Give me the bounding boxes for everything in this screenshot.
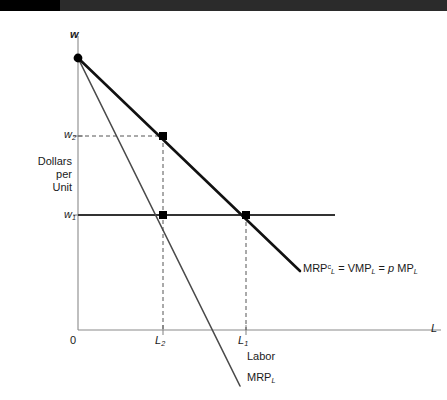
y-axis-title: Dollars per Unit — [10, 155, 72, 194]
curve-label-competitive-eq1: = — [335, 262, 348, 274]
y-axis-title-line-1: Dollars — [10, 155, 72, 168]
curve-label-monopsony-sub: L — [271, 376, 275, 385]
y-tick-label-w1-sub: 1 — [72, 213, 76, 222]
y-tick-label-w2-base: w — [64, 128, 72, 140]
x-axis-label: L — [431, 322, 437, 335]
curve-label-monopsony-base: MRP — [247, 371, 271, 383]
y-tick-label-w1-base: w — [64, 208, 72, 220]
curve-label-competitive-p2: VMP — [348, 262, 372, 274]
curve-label-monopsony: MRPL — [247, 371, 276, 385]
chart-canvas — [0, 0, 447, 400]
point-l2-w2 — [159, 132, 167, 140]
y-axis-label: w — [70, 28, 79, 41]
x-tick-label-l2-sub: 2 — [161, 339, 165, 348]
y-tick-label-w2: w2 — [58, 128, 76, 142]
y-tick-label-w1: w1 — [58, 208, 76, 222]
y-axis-title-line-2: per — [10, 168, 72, 181]
point-intercept — [74, 54, 83, 63]
y-axis-title-line-3: Unit — [10, 181, 72, 194]
curve-label-competitive: MRPcL = VMPL = p MPL — [303, 262, 418, 276]
curve-label-competitive-p3-prefix: p — [388, 262, 394, 274]
curve-label-competitive-eq2: = — [376, 262, 389, 274]
curve-label-competitive-p3: MP — [397, 262, 414, 274]
curve-label-competitive-p1: MRP — [303, 262, 327, 274]
x-tick-label-l2: L2 — [155, 334, 165, 348]
curve-mrp-c-l — [78, 58, 300, 271]
origin-label: 0 — [70, 334, 76, 347]
y-tick-label-w2-sub: 2 — [72, 133, 76, 142]
curve-label-competitive-p3-sub: L — [414, 267, 418, 276]
figure-root: w L 0 L2 L1 w2 w1 Dollars per Unit MRPcL… — [0, 0, 447, 400]
point-l2-w1 — [159, 211, 167, 219]
x-axis-caption: Labor — [247, 350, 275, 363]
point-l1-w1 — [242, 211, 250, 219]
x-tick-label-l1-sub: 1 — [244, 339, 248, 348]
x-tick-label-l1: L1 — [238, 334, 248, 348]
